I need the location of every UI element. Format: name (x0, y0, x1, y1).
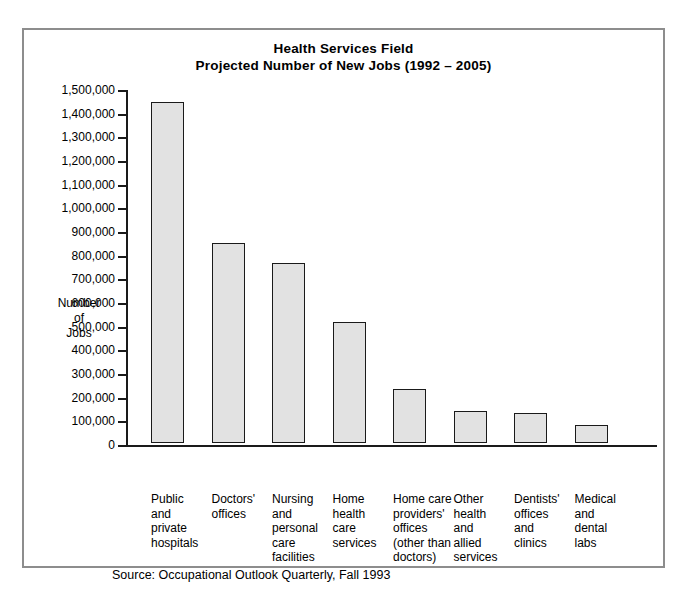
y-axis-tick-mark (118, 445, 126, 447)
y-axis-tick-mark (118, 303, 126, 305)
y-axis-tick-label: 200,000 (72, 392, 115, 404)
y-axis-tick-mark (118, 374, 126, 376)
category-label-line: services (454, 550, 530, 565)
y-axis-tick-label: 300,000 (72, 368, 115, 380)
bar (454, 411, 487, 443)
bar (393, 389, 426, 443)
category-label-line: and (575, 507, 651, 522)
y-axis-tick-label: 800,000 (72, 250, 115, 262)
y-axis-tick-label: 1,500,000 (62, 84, 115, 96)
plot-area: 0100,000200,000300,000400,000500,000600,… (126, 90, 657, 445)
y-axis-tick-mark (118, 350, 126, 352)
y-axis-tick-mark (118, 90, 126, 92)
category-label-line: hospitals (151, 536, 227, 551)
bar (333, 322, 366, 443)
y-axis-tick-mark (118, 185, 126, 187)
chart-title-block: Health Services Field Projected Number o… (24, 40, 663, 74)
y-axis-tick-label: 1,000,000 (62, 202, 115, 214)
category-label-line: labs (575, 536, 651, 551)
chart-frame: Health Services Field Projected Number o… (22, 28, 665, 568)
y-axis-tick-label: 400,000 (72, 344, 115, 356)
y-axis-tick-label: 600,000 (72, 297, 115, 309)
y-axis-tick-mark (118, 161, 126, 163)
bar (575, 425, 608, 443)
y-axis-tick-mark (118, 421, 126, 423)
y-axis-tick-label: 500,000 (72, 321, 115, 333)
y-axis-line (126, 90, 128, 446)
y-axis-tick-label: 100,000 (72, 415, 115, 427)
x-axis-line (126, 445, 657, 447)
category-label-line: dental (575, 521, 651, 536)
bar (151, 102, 184, 443)
category-label-line: private (151, 521, 227, 536)
chart-title: Health Services Field (24, 40, 663, 57)
y-axis-tick-label: 0 (108, 439, 115, 451)
y-axis-tick-mark (118, 137, 126, 139)
y-axis-tick-mark (118, 114, 126, 116)
y-axis-tick-mark (118, 398, 126, 400)
chart-subtitle: Projected Number of New Jobs (1992 – 200… (24, 57, 663, 74)
bar (272, 263, 305, 443)
y-axis-tick-label: 1,400,000 (62, 108, 115, 120)
x-axis-category-label: Medicalanddentallabs (575, 492, 651, 550)
y-axis-tick-mark (118, 279, 126, 281)
bar (212, 243, 245, 443)
y-axis-tick-label: 1,300,000 (62, 131, 115, 143)
y-axis-tick-mark (118, 256, 126, 258)
category-label-line: Medical (575, 492, 651, 507)
y-axis-tick-label: 900,000 (72, 226, 115, 238)
bar (514, 413, 547, 443)
y-axis-tick-label: 1,200,000 (62, 155, 115, 167)
source-note: Source: Occupational Outlook Quarterly, … (112, 568, 390, 582)
y-axis-tick-mark (118, 327, 126, 329)
y-axis-tick-label: 1,100,000 (62, 179, 115, 191)
category-label-line: facilities (272, 550, 348, 565)
y-axis-tick-mark (118, 232, 126, 234)
y-axis-tick-mark (118, 208, 126, 210)
y-axis-tick-label: 700,000 (72, 273, 115, 285)
